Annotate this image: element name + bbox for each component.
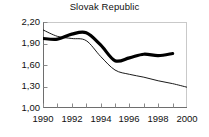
x-tick-label: 2000 — [172, 113, 202, 124]
x-tick-label: 1998 — [143, 113, 173, 124]
y-tick-label: 1,00 — [6, 103, 40, 113]
y-tick-label: 1,30 — [6, 81, 40, 91]
plot-area — [43, 22, 187, 108]
y-tick-label: 1,90 — [6, 38, 40, 48]
x-tick-label: 1994 — [86, 113, 116, 124]
x-tick-label: 1996 — [114, 113, 144, 124]
y-tick-label: 1,60 — [6, 60, 40, 70]
y-tick-label: 2,20 — [6, 17, 40, 27]
chart-figure: Slovak Republic 2,20 1,90 1,60 1,30 1,00… — [0, 0, 209, 137]
data-series-layer — [43, 30, 187, 87]
x-tick-label: 1990 — [28, 113, 58, 124]
x-axis-ticks — [44, 104, 188, 108]
plot-svg — [43, 22, 187, 108]
x-tick-label: 1992 — [57, 113, 87, 124]
x-axis-tick-labels: 1990 1992 1994 1996 1998 2000 — [0, 113, 209, 129]
y-axis-ticks — [44, 23, 48, 109]
plot-frame — [43, 22, 187, 108]
series-thick-line — [43, 32, 173, 61]
